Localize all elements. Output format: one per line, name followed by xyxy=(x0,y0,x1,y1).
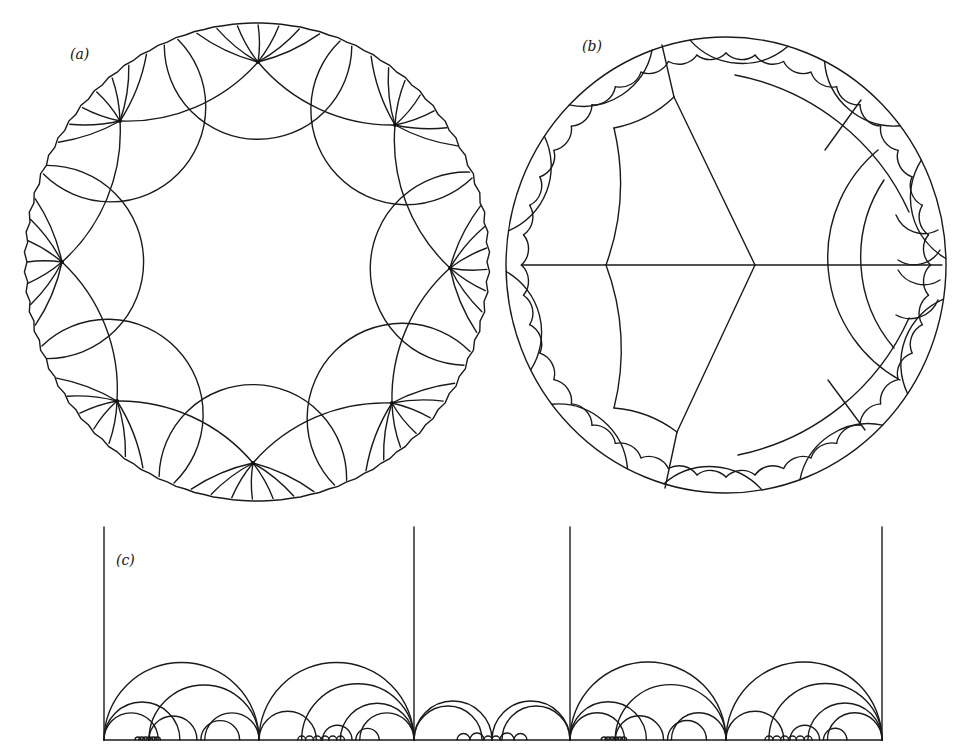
edge-arc xyxy=(253,403,392,463)
fan-arc xyxy=(450,227,485,268)
edge-arc xyxy=(120,62,258,121)
fan-arc xyxy=(450,268,487,270)
small-semicircle xyxy=(570,702,646,740)
boundary-scallop xyxy=(641,456,668,468)
fan-arc xyxy=(258,25,259,62)
boundary-scallop xyxy=(524,295,533,325)
boundary-scallop xyxy=(837,87,860,105)
edge-arc xyxy=(117,401,253,463)
boundary-scallop xyxy=(860,105,881,126)
semicircle-geodesic xyxy=(514,734,527,740)
boundary-scallop xyxy=(554,380,572,404)
boundary-scallop xyxy=(860,404,881,425)
fan-arc xyxy=(392,400,443,403)
boundary-scallop xyxy=(592,425,615,443)
fan-arc xyxy=(395,125,447,129)
boundary-scallop xyxy=(923,265,930,295)
spoke-edge xyxy=(665,432,677,488)
fan-arc xyxy=(251,463,253,499)
edge-arc xyxy=(614,408,677,432)
boundary-scallop xyxy=(755,55,784,64)
fan-arc xyxy=(83,108,121,121)
boundary-scallop xyxy=(880,380,898,404)
panel-b-poincare-disk xyxy=(506,37,946,493)
cluster-arc xyxy=(898,250,940,265)
figure: (a) (b) (c) xyxy=(0,0,958,750)
edge-arc xyxy=(62,121,120,262)
fan-arc xyxy=(211,463,253,494)
boundary-scallop xyxy=(919,205,928,235)
vertex-dot xyxy=(256,60,260,64)
small-semicircle xyxy=(104,702,180,740)
vertex-dot xyxy=(390,401,394,405)
boundary-scallop xyxy=(726,53,755,60)
spoke-edge xyxy=(662,45,674,97)
large-semicircle xyxy=(726,662,882,740)
fan-arc xyxy=(117,401,143,468)
vertex-dot xyxy=(448,266,452,270)
boundary-scallop xyxy=(897,150,912,177)
fan-arc xyxy=(57,378,118,401)
boundary-scallop xyxy=(641,62,668,74)
boundary-scallop xyxy=(897,353,912,380)
cluster-arc xyxy=(896,300,938,319)
fan-arc xyxy=(31,262,62,304)
boundary-scallop xyxy=(524,205,533,235)
small-semicircle xyxy=(671,713,726,740)
boundary-scallop xyxy=(615,443,641,458)
boundary-scallop xyxy=(615,72,641,87)
boundary-scallop xyxy=(880,126,898,150)
tessellation-figure xyxy=(0,0,958,750)
boundary-arc xyxy=(901,299,944,394)
boundary-scallop xyxy=(837,425,860,443)
boundary-scallop xyxy=(554,126,572,150)
cap-arc xyxy=(307,323,470,485)
boundary-scallop xyxy=(571,404,592,425)
boundary-scallop xyxy=(784,62,811,74)
boundary-scallop xyxy=(540,353,555,380)
edge-arc xyxy=(606,128,620,265)
fan-arc xyxy=(217,29,258,62)
cluster-arc xyxy=(896,215,938,234)
vertex-dot xyxy=(251,461,255,465)
fan-arc xyxy=(31,220,62,262)
panel-c-upper-half-plane xyxy=(104,527,882,740)
edge-arc xyxy=(614,97,674,128)
edge-arc xyxy=(62,262,117,401)
boundary-scallop xyxy=(592,87,615,105)
fan-arc xyxy=(450,268,482,312)
boundary-scallop xyxy=(784,456,811,468)
boundary-scallop xyxy=(571,105,592,126)
fan-arc xyxy=(120,54,147,121)
panel-a-label: (a) xyxy=(70,46,89,62)
fan-arc xyxy=(392,403,430,418)
spoke-edge xyxy=(677,265,755,432)
boundary-arc xyxy=(552,404,628,469)
boundary-scallop xyxy=(755,466,784,475)
edge-arc xyxy=(738,318,909,455)
boundary-arc xyxy=(509,136,552,231)
boundary-arc xyxy=(825,61,901,126)
fan-arc xyxy=(27,261,62,262)
fan-arc xyxy=(388,68,395,125)
boundary-scallop xyxy=(668,466,697,475)
fan-arc xyxy=(395,81,405,125)
spoke-edge xyxy=(674,97,755,265)
cluster-arc xyxy=(898,270,940,285)
edge-arc xyxy=(606,265,621,408)
edge-arc xyxy=(735,75,909,212)
vertex-dot xyxy=(60,260,64,264)
boundary-scallop xyxy=(697,470,726,477)
fan-arc xyxy=(384,403,392,460)
vertex-dot xyxy=(115,399,119,403)
boundary-scallop xyxy=(540,150,555,177)
boundary-scallop xyxy=(910,325,922,353)
panel-c-label: (c) xyxy=(116,552,135,568)
fan-arc xyxy=(395,111,434,125)
boundary-scallop xyxy=(919,295,928,325)
fan-arc xyxy=(366,403,392,471)
fan-arc xyxy=(258,29,299,62)
boundary-scallop xyxy=(521,235,528,265)
edge xyxy=(825,100,861,150)
panel-a-poincare-disk xyxy=(24,23,489,501)
